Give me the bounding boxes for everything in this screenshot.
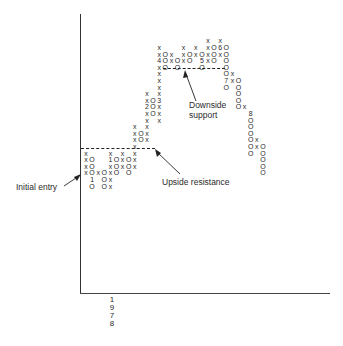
downside-support-label-line2: support bbox=[189, 110, 217, 120]
upside-resistance-arrow-icon bbox=[155, 149, 180, 174]
downside-support-label-line1: Downside bbox=[189, 100, 226, 110]
downside-support-arrow-icon bbox=[183, 70, 196, 101]
annotation-arrows bbox=[0, 0, 343, 346]
initial-entry-label: Initial entry bbox=[16, 182, 57, 192]
year-digit: 8 bbox=[108, 320, 116, 328]
x-tick-year-1978: 1 9 7 8 bbox=[108, 296, 116, 328]
initial-entry-arrow-icon bbox=[64, 174, 81, 186]
upside-resistance-label: Upside resistance bbox=[162, 177, 230, 187]
